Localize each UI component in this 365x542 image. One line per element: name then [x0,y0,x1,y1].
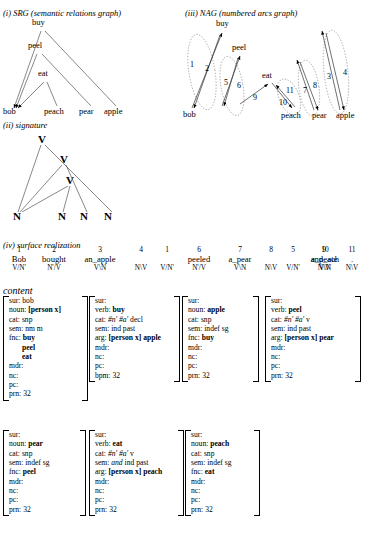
proplet-row: pc: [188,361,229,370]
nag-node-peach: peach [281,110,301,120]
proplet-row: nc: [271,352,334,361]
proplet-row: fnc: peel [9,467,50,476]
surface-category: N\V [340,264,364,272]
proplet-row: nc: [95,486,162,495]
surface-column: 7a_pearV\N [219,246,261,272]
proplet-key: cat: [271,315,282,324]
proplet-value: 32 [205,505,213,514]
surface-category: N'/V [178,264,220,272]
proplet-key: sem: [191,458,205,467]
proplet-key: pc: [191,495,200,504]
proplet-key: mdr: [9,361,23,370]
proplet-key: fnc: [188,333,200,342]
proplet-value: ind past [111,324,135,333]
proplet: sur:verb: peelcat: #n' #a' vsem: ind pas… [265,296,360,399]
proplet-value: #n' #a' decl [108,315,143,324]
proplet-value: 32 [23,505,31,514]
proplet-value: peach [210,439,229,448]
proplet-key: sem: [271,324,285,333]
surface-column: 11.N\V [340,246,364,272]
surface-column: 8 N\V [259,246,283,272]
proplet-key: noun: [191,439,208,448]
proplet-row: mdr: [191,477,232,486]
proplet-key: arg: [271,333,283,342]
proplet-value: [person x] [28,305,61,314]
proplet-key: prn: [188,371,200,380]
nag-arc-label-1: 1 [190,60,194,69]
proplet-key: pc: [95,361,104,370]
proplet-key: nc: [9,486,18,495]
proplet-value: 32 [202,371,210,380]
proplet-key: sur: [271,296,282,305]
proplet-key: prn: [191,505,203,514]
proplet-key: pc: [95,495,104,504]
proplet: sur:noun: applecat: snpsem: indef sgfnc:… [182,296,258,399]
proplet-key: sur: [95,296,106,305]
nag-arc-label-3: 3 [327,72,331,81]
nag-arc-label-4: 4 [343,68,347,77]
proplet-key: verb: [95,305,111,314]
surface-realization-row: 1BobV/N'2boughtN'/V3an_appleV\N4 N\V1 V/… [0,246,365,284]
surface-word [259,254,283,264]
proplet-key: nc: [95,486,104,495]
nag-arc-label-10: 10 [279,98,287,107]
proplet-row: bpm: 32 [95,371,161,380]
proplet-key: cat: [9,449,20,458]
proplet: sur:verb: buycat: #n' #a' declsem: ind p… [89,296,179,399]
proplet-key: sur: [95,430,106,439]
proplet-value: [person x] apple [109,333,161,342]
proplet-key: mdr: [95,343,109,352]
proplet-key: mdr: [95,477,109,486]
surface-arc-number: 1 [154,246,180,254]
proplet: sur:noun: peachcat: snpsem: indef sgfnc:… [185,430,259,533]
proplet-right-bracket [80,430,86,516]
proplet-row: pc: [9,380,61,389]
proplet-row: sur: [188,296,229,305]
nag-node-apple: apple [336,110,354,120]
proplet-key: prn: [9,389,21,398]
proplet-row: fnc: buy [9,333,61,342]
proplet-row: prn: 32 [188,371,229,380]
proplet-value: snp [22,449,33,458]
nag-arc-label-6: 6 [237,81,241,90]
surface-arc-number: 1 [4,246,34,254]
proplet-row: sem: indef sg [188,324,229,333]
surface-category: V/N' [154,264,180,272]
proplet-row: cat: snp [9,315,61,324]
proplet-row: nc: [9,486,50,495]
proplet-right-bracket [254,430,260,516]
proplet-row: sem: nm m [9,324,61,333]
proplet-key: fnc: [9,333,21,342]
proplet-value: #n' #a' v [108,449,134,458]
proplet-key: nc: [191,486,200,495]
proplet-key: sem: [9,324,23,333]
proplet-key: prn: [271,371,283,380]
proplet-row: pc: [95,361,161,370]
proplet-row: prn: 32 [9,389,61,398]
surface-column: 1BobV/N' [4,246,34,272]
proplet-value: peel [23,467,36,476]
proplet-row: cat: #n' #a' v [95,449,162,458]
proplet-row: mdr: [95,343,161,352]
proplet-value: buy [202,333,214,342]
proplet: sur:verb: eatcat: #n' #a' vsem: and ind … [89,430,183,533]
proplet-row: cat: #n' #a' decl [95,315,161,324]
surface-word: bought [33,254,75,264]
nag-node-buy: buy [216,18,229,28]
proplet-key: arg: [95,333,107,342]
proplet-row: fnc: eat [191,467,232,476]
nag-node-peel: peel [232,42,246,52]
proplet-value: 32 [109,505,117,514]
proplet-value: eat [9,352,32,361]
proplet-row: arg: [person x] apple [95,333,161,342]
proplet-value: ind past [287,324,311,333]
proplet-key: mdr: [191,477,205,486]
proplet-key: sur: [191,430,202,439]
proplet-row: sur: [9,430,50,439]
proplet-key: cat: [95,315,106,324]
proplet-value: apple [207,305,225,314]
proplet-value: and ind past [111,458,148,467]
proplet-row: cat: snp [188,315,229,324]
proplet-value: bob [22,296,33,305]
proplet-row: cat: snp [9,449,50,458]
